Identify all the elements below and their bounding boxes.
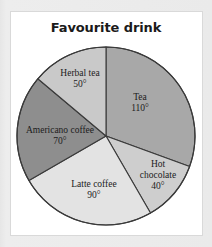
pie-slice-label: Tea110° <box>131 92 149 113</box>
pie-chart: Tea110°Hotchocolate40°Latte coffee90°Ame… <box>0 0 212 247</box>
pie-slice-group <box>17 47 195 225</box>
pie-chart-svg: Tea110°Hotchocolate40°Latte coffee90°Ame… <box>0 0 212 247</box>
page-root: Favourite drink Tea110°Hotchocolate40°La… <box>0 0 212 247</box>
